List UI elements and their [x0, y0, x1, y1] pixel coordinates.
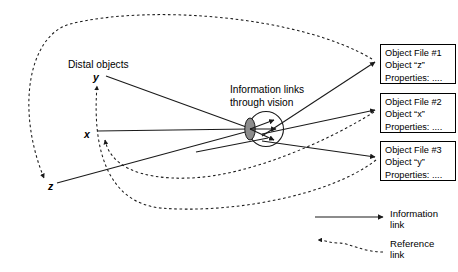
reference-link-box2-to-x [105, 112, 374, 178]
eye-to-objectfile-links [262, 62, 375, 157]
reference-link-curves [29, 15, 376, 210]
information-links-label-line1: Information links [230, 84, 304, 97]
lower-through-ray [196, 138, 268, 152]
legend-information-link-line1: Information [390, 208, 438, 219]
object-file-box-3: Object File #3 Object “y” Properties: ..… [380, 141, 456, 181]
object-label-x: x [84, 128, 90, 140]
object-file-3-title: Object File #3 [385, 144, 452, 156]
object-file-3-object: Object “y” [385, 156, 452, 168]
line-y-to-eye [106, 76, 249, 128]
link-eye-to-box2 [262, 110, 375, 134]
information-links-label-line2: through vision [230, 97, 304, 110]
object-file-1-properties: Properties: .... [385, 72, 452, 84]
reference-link-box1-to-z [29, 15, 372, 178]
link-eye-to-box3 [262, 141, 375, 157]
object-file-3-properties: Properties: .... [385, 169, 452, 181]
legend-reference-link-line1: Reference [390, 238, 434, 249]
object-file-2-title: Object File #2 [385, 96, 452, 108]
legend-reference-link-label: Reference link [390, 238, 434, 261]
object-label-y: y [93, 71, 99, 83]
information-links-label: Information links through vision [230, 84, 304, 109]
object-file-box-1: Object File #1 Object “z” Properties: ..… [380, 44, 456, 84]
line-x-to-eye [97, 129, 249, 131]
object-label-z: z [48, 180, 53, 192]
object-file-box-2: Object File #2 Object “x” Properties: ..… [380, 93, 456, 133]
object-file-2-object: Object “x” [385, 108, 452, 120]
legend-information-link-line2: link [390, 219, 438, 230]
object-file-1-object: Object “z” [385, 59, 452, 71]
legend-information-link-label: Information link [390, 208, 438, 231]
object-file-2-properties: Properties: .... [385, 121, 452, 133]
diagram-canvas: Distal objects Information links through… [0, 0, 458, 272]
legend-reference-link-arrow [318, 240, 383, 252]
object-file-1-title: Object File #1 [385, 47, 452, 59]
distal-objects-label: Distal objects [68, 59, 129, 70]
diagram-vector-layer [0, 0, 458, 272]
legend-reference-link-line2: link [390, 249, 434, 260]
legend-glyphs [315, 217, 383, 252]
